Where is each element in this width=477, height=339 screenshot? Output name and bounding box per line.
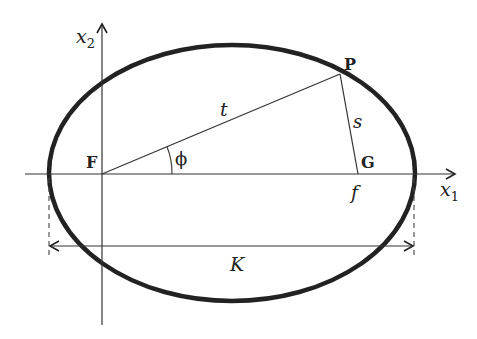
- focal-distance-label: f: [349, 181, 361, 203]
- point-G-label: G: [361, 153, 375, 172]
- angle-phi-label: ϕ: [175, 148, 187, 169]
- ellipse-diagram: x2 x1 F P G t s ϕ f K: [0, 0, 477, 339]
- x1-axis-label: x1: [440, 178, 459, 204]
- angle-arc: [167, 147, 172, 174]
- segment-t-label: t: [220, 98, 228, 120]
- x2-axis-label: x2: [76, 25, 95, 51]
- segment-s-label: s: [353, 111, 362, 132]
- point-P-label: P: [344, 55, 356, 74]
- width-label: K: [229, 253, 246, 275]
- point-F-label: F: [86, 153, 98, 172]
- segment-t: [102, 74, 340, 174]
